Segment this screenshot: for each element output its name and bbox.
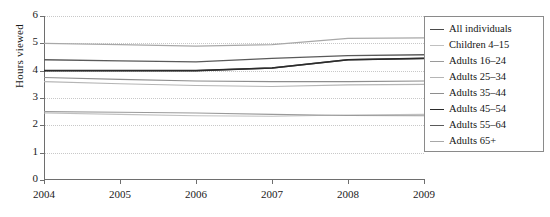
y-tick-label: 4 (18, 63, 38, 75)
series-line (44, 78, 424, 82)
legend-label: Adults 16–24 (449, 53, 506, 69)
legend-swatch-line-icon (430, 109, 444, 110)
legend-label: Adults 65+ (449, 133, 496, 149)
plot-area: 0123456 200420052006200720082009 (44, 16, 424, 180)
y-tick-label: 0 (18, 172, 38, 184)
legend-swatch-line-icon (430, 141, 444, 142)
legend-label: Adults 45–54 (449, 101, 506, 117)
legend-item[interactable]: Adults 25–34 (430, 69, 539, 85)
x-tick-label: 2006 (185, 188, 207, 200)
legend-label: All individuals (449, 21, 512, 37)
x-tick-label: 2005 (109, 188, 131, 200)
legend-item[interactable]: Adults 16–24 (430, 53, 539, 69)
x-tick-mark (424, 179, 425, 184)
legend-item[interactable]: Adults 55–64 (430, 117, 539, 133)
legend-label: Adults 35–44 (449, 85, 506, 101)
legend-item[interactable]: All individuals (430, 21, 539, 37)
series-line (44, 55, 424, 62)
x-tick-label: 2004 (33, 188, 55, 200)
legend-swatch-line-icon (430, 77, 444, 78)
legend-swatch-line-icon (430, 61, 444, 62)
legend: All individualsChildren 4–15Adults 16–24… (424, 16, 544, 152)
x-tick-label: 2007 (261, 188, 283, 200)
y-tick-label: 6 (18, 8, 38, 20)
x-tick-label: 2009 (413, 188, 435, 200)
x-tick-label: 2008 (337, 188, 359, 200)
legend-item[interactable]: Adults 35–44 (430, 85, 539, 101)
legend-label: Adults 55–64 (449, 117, 506, 133)
legend-swatch-line-icon (430, 125, 444, 126)
legend-label: Adults 25–34 (449, 69, 506, 85)
legend-item[interactable]: Adults 65+ (430, 133, 539, 149)
legend-label: Children 4–15 (449, 37, 509, 53)
legend-swatch-line-icon (430, 45, 444, 46)
y-tick-label: 5 (18, 35, 38, 47)
y-tick-label: 1 (18, 145, 38, 157)
chart-container: Hours viewed 0123456 2004200520062007200… (0, 0, 550, 217)
series-lines (44, 16, 424, 180)
series-line (44, 82, 424, 87)
legend-item[interactable]: Adults 45–54 (430, 101, 539, 117)
legend-item[interactable]: Children 4–15 (430, 37, 539, 53)
y-tick-label: 2 (18, 117, 38, 129)
legend-swatch-line-icon (430, 93, 444, 94)
series-line (44, 38, 424, 46)
legend-swatch-line-icon (430, 29, 444, 30)
y-tick-label: 3 (18, 90, 38, 102)
